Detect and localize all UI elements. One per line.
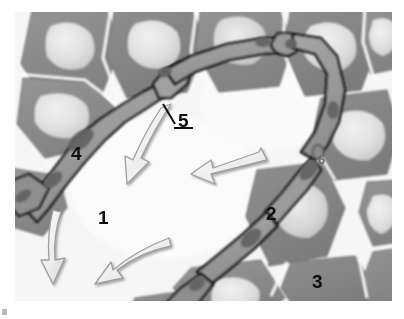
figure-canvas: 1 2 3 4 5 6 — [0, 0, 404, 319]
label-2: 2 — [266, 204, 277, 223]
label-1: 1 — [98, 208, 109, 227]
label-4: 4 — [71, 144, 82, 163]
label-5: 5 — [178, 111, 189, 130]
label-6: 6 — [318, 153, 325, 166]
corner-registration-mark — [2, 309, 7, 315]
label-3: 3 — [312, 272, 323, 291]
